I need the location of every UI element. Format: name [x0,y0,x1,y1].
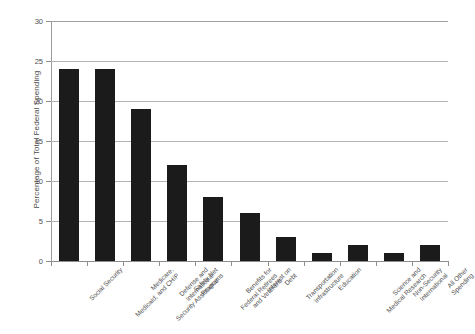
x-tick-mark [412,262,413,266]
bar [312,253,332,261]
bar [167,165,187,261]
y-tick-mark [46,221,51,222]
y-tick-mark [46,101,51,102]
bar [240,213,260,261]
y-tick-label: 0 [39,257,43,266]
x-axis-line [51,261,449,262]
y-tick-mark [46,181,51,182]
y-tick-label: 15 [35,137,43,146]
y-tick-label: 20 [35,97,43,106]
y-tick-label: 30 [35,17,43,26]
y-tick-mark [46,21,51,22]
x-tick-mark [340,262,341,266]
bar [276,237,296,261]
bar [420,245,440,261]
x-tick-mark [448,262,449,266]
x-tick-mark [87,262,88,266]
x-tick-mark [376,262,377,266]
x-tick-mark [159,262,160,266]
bar [203,197,223,261]
bar [131,109,151,261]
y-tick-label: 25 [35,57,43,66]
y-tick-mark [46,61,51,62]
bar [348,245,368,261]
gridline [51,61,448,62]
x-tick-mark [304,262,305,266]
y-tick-mark [46,141,51,142]
gridline [51,21,448,22]
x-tick-mark [195,262,196,266]
x-axis-label: All OtherSpending [444,266,474,296]
x-tick-mark [123,262,124,266]
x-axis-label-line: Social Security [88,266,124,302]
bar [95,69,115,261]
bar [384,253,404,261]
y-tick-label: 5 [39,217,43,226]
x-tick-mark [51,262,52,266]
x-tick-mark [231,262,232,266]
bar [59,69,79,261]
x-axis-label: Social Security [88,266,124,302]
y-tick-label: 10 [35,177,43,186]
